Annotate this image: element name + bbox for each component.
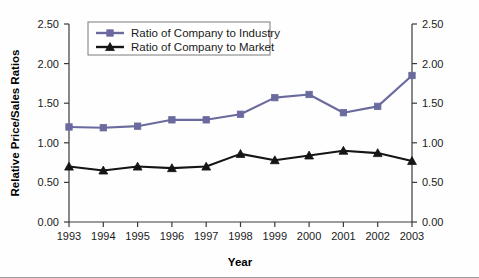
x-tick-label: 1993 [57,230,81,242]
x-tick-label: 1994 [91,230,115,242]
series-line [69,75,412,127]
line-chart: Relative Price/Sales Ratios Year 0.000.5… [0,0,479,278]
series-market [65,146,417,174]
y-axis-ticks-left: 0.000.501.001.502.002.50 [38,18,69,228]
x-tick-label: 1998 [228,230,252,242]
data-point-marker [169,117,175,123]
data-point-marker [203,117,209,123]
data-point-marker [237,111,243,117]
data-point-marker [100,125,106,131]
y-tick-label-right: 1.00 [422,137,443,149]
y-tick-label-right: 0.50 [422,176,443,188]
x-tick-label: 1997 [194,230,218,242]
y-tick-label-right: 1.50 [422,97,443,109]
data-point-marker [107,30,113,36]
chart-figure: Relative Price/Sales Ratios Year 0.000.5… [0,0,479,278]
data-point-marker [272,94,278,100]
data-point-marker [409,72,415,78]
x-tick-label: 1995 [125,230,149,242]
data-point-marker [306,91,312,97]
y-tick-label-right: 2.50 [422,18,443,30]
y-tick-label-left: 0.00 [38,216,59,228]
x-axis-ticks: 1993199419951996199719981999200020012002… [57,222,424,242]
y-tick-label-right: 0.00 [422,216,443,228]
data-point-marker [375,103,381,109]
data-point-marker [340,110,346,116]
y-tick-label-left: 1.50 [38,97,59,109]
y-tick-label-left: 2.50 [38,18,59,30]
legend-label: Ratio of Company to Industry [131,27,280,39]
y-axis-ticks-right: 0.000.501.001.502.002.50 [412,18,443,228]
data-point-marker [134,123,140,129]
series-layer [65,72,417,174]
y-tick-label-left: 2.00 [38,58,59,70]
x-tick-label: 1999 [263,230,287,242]
y-tick-label-left: 0.50 [38,176,59,188]
x-tick-label: 2000 [297,230,321,242]
y-axis-title: Relative Price/Sales Ratios [9,49,21,196]
x-tick-label: 2002 [365,230,389,242]
series-industry [66,72,415,131]
y-tick-label-left: 1.00 [38,137,59,149]
legend-label: Ratio of Company to Market [131,41,275,53]
chart-legend: Ratio of Company to IndustryRatio of Com… [88,22,280,55]
x-tick-label: 2001 [331,230,355,242]
x-tick-label: 1996 [160,230,184,242]
x-tick-label: 2003 [400,230,424,242]
x-axis-title: Year [228,256,253,268]
y-tick-label-right: 2.00 [422,58,443,70]
data-point-marker [66,124,72,130]
